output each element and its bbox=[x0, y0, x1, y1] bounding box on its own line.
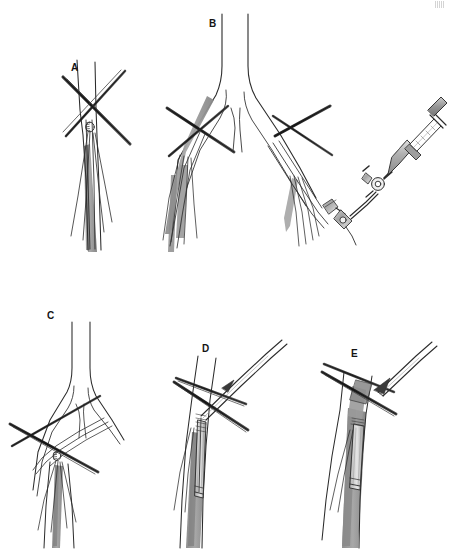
syringe bbox=[388, 97, 447, 175]
panel-d-illustration bbox=[174, 340, 287, 548]
panel-c-illustration bbox=[10, 322, 124, 548]
panel-b-illustration bbox=[163, 14, 447, 252]
panel-label-d: D bbox=[202, 344, 209, 354]
panel-label-a: A bbox=[71, 63, 78, 73]
panel-label-c: C bbox=[47, 311, 54, 321]
figure-root: A B C D E bbox=[0, 0, 455, 549]
panel-a-illustration bbox=[63, 60, 130, 252]
panel-label-b: B bbox=[209, 19, 216, 29]
sheath-hub-b bbox=[323, 199, 338, 214]
scan-artifact-icon bbox=[435, 1, 445, 8]
panel-e-illustration bbox=[322, 342, 437, 548]
withdrawn-dilator-e bbox=[374, 342, 437, 396]
surgical-technique-illustration bbox=[0, 0, 455, 549]
three-way-stopcock bbox=[362, 166, 392, 197]
panel-label-e: E bbox=[351, 349, 358, 359]
